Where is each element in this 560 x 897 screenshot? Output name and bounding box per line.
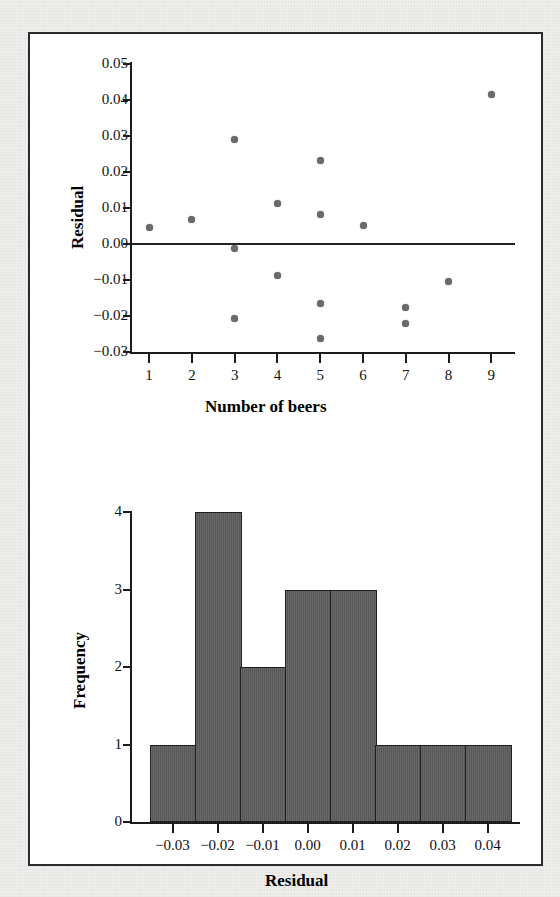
scatter-point [188,216,195,223]
scatter-x-tick-label: 4 [262,368,292,383]
scatter-y-tick-label: 0.00 [84,236,128,251]
scatter-x-tick [490,354,492,363]
histogram-x-tick [352,824,354,833]
histogram-bar [465,745,512,823]
scatter-point [231,136,238,143]
scatter-x-tick-label: 6 [348,368,378,383]
scatter-point [231,245,238,252]
scatter-y-tick-label: 0.04 [84,92,128,107]
histogram-y-tick-label: 4 [92,504,122,519]
histogram-x-tick-label: 0.04 [460,838,516,853]
scatter-point [146,224,153,231]
scatter-x-tick [234,354,236,363]
scatter-point [317,335,324,342]
histogram-x-tick [487,824,489,833]
histogram-x-tick [172,824,174,833]
scatter-x-tick-label: 7 [391,368,421,383]
histogram-x-tick [262,824,264,833]
scatter-x-tick [276,354,278,363]
histogram-x-axis-line [130,822,520,824]
scatter-point [317,300,324,307]
scatter-point [360,222,367,229]
residual-scatter-plot: Residual −0.03−0.02−0.010.000.010.020.03… [30,34,545,434]
scatter-y-tick-label: −0.03 [84,344,128,359]
scatter-x-tick-label: 9 [476,368,506,383]
scatter-x-tick-label: 5 [305,368,335,383]
histogram-y-tick-label: 0 [92,814,122,829]
scatter-y-tick-label: 0.03 [84,128,128,143]
figure-frame: Residual −0.03−0.02−0.010.000.010.020.03… [28,32,543,866]
scatter-point [402,320,409,327]
scatter-point [317,211,324,218]
scatter-y-tick-label: 0.02 [84,164,128,179]
scatter-x-tick [148,354,150,363]
histogram-x-tick [217,824,219,833]
scatter-x-axis-line [130,352,515,354]
scatter-x-tick-label: 8 [434,368,464,383]
histogram-bar [420,745,467,823]
scatter-x-tick-label: 3 [220,368,250,383]
histogram-bar [375,745,422,823]
scatter-point [274,272,281,279]
histogram-bar [150,745,197,823]
histogram-y-tick-label: 3 [92,582,122,597]
histogram-y-tick-label: 2 [92,659,122,674]
scatter-y-axis-line [130,62,132,354]
residual-histogram: Frequency 01234 −0.03−0.02−0.010.000.010… [30,434,545,868]
histogram-x-tick [307,824,309,833]
scatter-point [445,278,452,285]
histogram-x-tick [397,824,399,833]
scatter-point [402,304,409,311]
scatter-x-tick-label: 1 [134,368,164,383]
histogram-x-tick [442,824,444,833]
scatter-y-tick-label: −0.01 [84,272,128,287]
histogram-y-axis-title: Frequency [70,632,90,709]
histogram-x-axis-title: Residual [265,871,328,891]
scatter-y-tick-label: 0.01 [84,200,128,215]
scatter-x-tick [448,354,450,363]
histogram-bar [195,512,242,822]
scatter-point [317,157,324,164]
scatter-x-tick [191,354,193,363]
histogram-y-axis-line [130,512,132,824]
scatter-x-axis-title: Number of beers [205,397,327,417]
histogram-y-tick-label: 1 [92,737,122,752]
scatter-x-tick-label: 2 [177,368,207,383]
histogram-bar [330,590,377,823]
scatter-y-tick-label: 0.05 [84,56,128,71]
scatter-x-tick [319,354,321,363]
scatter-point [274,200,281,207]
scatter-x-tick [362,354,364,363]
scatter-point [488,91,495,98]
scatter-y-tick-label: −0.02 [84,308,128,323]
scatter-zero-reference-line [130,243,515,245]
scatter-x-tick [405,354,407,363]
histogram-bar [285,590,332,823]
scatter-point [231,315,238,322]
histogram-bar [240,667,287,822]
